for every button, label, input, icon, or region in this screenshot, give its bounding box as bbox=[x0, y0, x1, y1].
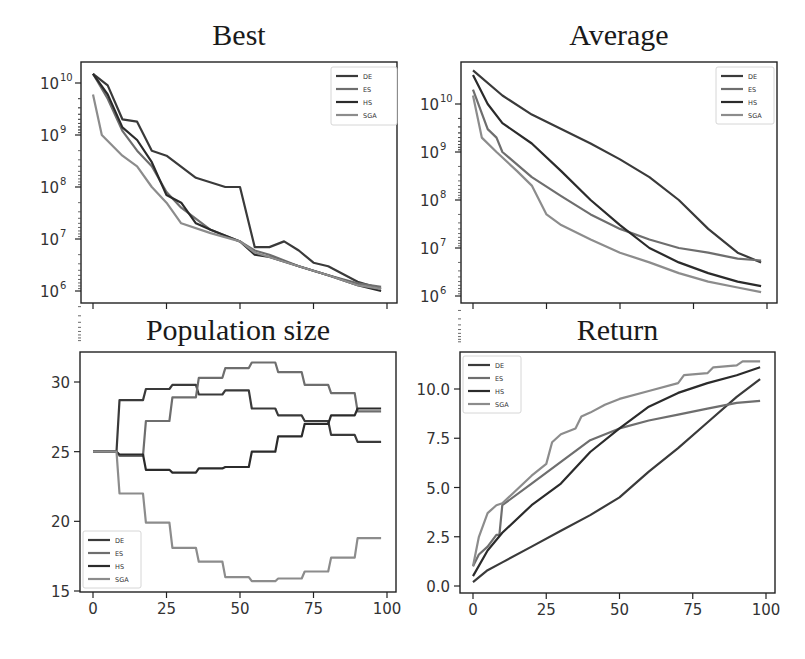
legend-label-es: ES bbox=[748, 86, 756, 94]
subplot-title: Best bbox=[212, 18, 266, 51]
x-tick-label: 0 bbox=[468, 601, 478, 619]
x-axis bbox=[473, 303, 767, 309]
legend-label-hs: HS bbox=[748, 99, 757, 107]
legend: DEESHSSGA bbox=[463, 356, 521, 413]
legend-label-sga: SGA bbox=[363, 112, 377, 120]
subplot-population-size: Population size025507510015202530DEESHSS… bbox=[51, 313, 401, 618]
x-tick-label: 50 bbox=[610, 601, 629, 619]
y-tick-label: 7.5 bbox=[426, 430, 450, 448]
y-tick-exponent: 10 bbox=[60, 72, 73, 83]
y-tick-label: 20 bbox=[51, 513, 70, 531]
legend-label-sga: SGA bbox=[495, 401, 509, 409]
y-tick-label: 15 bbox=[51, 583, 70, 601]
series-line-es bbox=[93, 363, 381, 456]
y-tick-label: 5.0 bbox=[426, 480, 450, 498]
y-tick-label: 2.5 bbox=[426, 529, 450, 547]
y-tick-label: 10 bbox=[40, 231, 59, 249]
legend: DEESHSSGA bbox=[83, 531, 141, 588]
x-axis bbox=[93, 303, 387, 309]
legend: DEESHSSGA bbox=[331, 67, 397, 125]
legend-label-de: DE bbox=[115, 537, 124, 545]
y-tick-label: 10 bbox=[420, 96, 439, 114]
legend-label-es: ES bbox=[495, 375, 503, 383]
x-tick-label: 25 bbox=[157, 600, 176, 618]
subplot-title: Return bbox=[577, 313, 659, 346]
x-axis: 0255075100 bbox=[468, 593, 780, 619]
subplot-best: Best1061071081091010DEESHSSGA bbox=[40, 18, 397, 341]
y-tick-exponent: 7 bbox=[60, 228, 66, 239]
y-tick-label: 10 bbox=[40, 75, 59, 93]
y-tick-exponent: 6 bbox=[440, 285, 446, 296]
y-tick-label: 0.0 bbox=[426, 578, 450, 596]
y-tick-label: 10 bbox=[420, 144, 439, 162]
x-tick-label: 25 bbox=[537, 601, 556, 619]
y-tick-label: 10 bbox=[420, 240, 439, 258]
y-axis: 0.02.55.07.510.0 bbox=[417, 381, 460, 596]
legend-label-hs: HS bbox=[495, 388, 504, 396]
x-tick-label: 75 bbox=[683, 601, 702, 619]
y-tick-exponent: 8 bbox=[60, 176, 66, 187]
figure: Best1061071081091010DEESHSSGAAverage1061… bbox=[0, 0, 805, 659]
legend-label-es: ES bbox=[363, 86, 371, 94]
subplot-title: Population size bbox=[146, 313, 330, 346]
y-tick-exponent: 9 bbox=[60, 124, 66, 135]
y-tick-exponent: 7 bbox=[440, 237, 446, 248]
y-tick-exponent: 8 bbox=[440, 189, 446, 200]
legend-label-de: DE bbox=[363, 73, 372, 81]
legend: DEESHSSGA bbox=[716, 67, 774, 124]
y-tick-label: 25 bbox=[51, 444, 70, 462]
y-tick-label: 10.0 bbox=[417, 381, 450, 399]
x-tick-label: 50 bbox=[230, 600, 249, 618]
y-tick-exponent: 6 bbox=[60, 280, 66, 291]
legend-label-hs: HS bbox=[363, 99, 372, 107]
series-line-es bbox=[473, 401, 760, 567]
x-tick-label: 0 bbox=[88, 600, 98, 618]
x-tick-label: 100 bbox=[752, 601, 781, 619]
y-tick-label: 10 bbox=[420, 288, 439, 306]
legend-label-de: DE bbox=[495, 362, 504, 370]
subplot-title: Average bbox=[569, 18, 668, 51]
x-tick-label: 100 bbox=[373, 600, 402, 618]
subplot-average: Average1061071081091010DEESHSSGA bbox=[420, 18, 777, 342]
x-tick-label: 75 bbox=[304, 600, 323, 618]
y-tick-label: 10 bbox=[420, 192, 439, 210]
legend-label-de: DE bbox=[748, 73, 757, 81]
y-axis: 15202530 bbox=[51, 374, 80, 601]
y-tick-label: 30 bbox=[51, 374, 70, 392]
x-axis: 0255075100 bbox=[88, 592, 401, 618]
series-line-sga bbox=[473, 96, 761, 293]
y-axis: 1061071081091010 bbox=[420, 93, 461, 342]
y-axis: 1061071081091010 bbox=[40, 72, 81, 341]
y-tick-exponent: 9 bbox=[440, 141, 446, 152]
legend-label-es: ES bbox=[115, 550, 123, 558]
legend-label-sga: SGA bbox=[115, 576, 129, 584]
y-tick-label: 10 bbox=[40, 283, 59, 301]
y-tick-exponent: 10 bbox=[440, 93, 453, 104]
legend-label-sga: SGA bbox=[748, 112, 762, 120]
y-tick-label: 10 bbox=[40, 179, 59, 197]
series-line-hs bbox=[93, 409, 381, 473]
legend-label-hs: HS bbox=[115, 563, 124, 571]
y-tick-label: 10 bbox=[40, 127, 59, 145]
series-line-de bbox=[93, 385, 381, 452]
subplot-return: Return02550751000.02.55.07.510.0DEESHSSG… bbox=[417, 313, 781, 619]
